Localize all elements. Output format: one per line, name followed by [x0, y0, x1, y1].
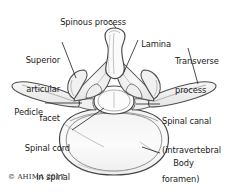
label-lamina-text: Lamina — [141, 39, 171, 49]
vertebra-diagram: Spinous process Lamina Transverse proces… — [0, 0, 228, 192]
label-transverse-process-line1: Transverse — [175, 57, 219, 67]
label-spinous-process-text: Spinous process — [60, 17, 126, 27]
label-superior-articular-facet-line2: articular — [0, 85, 60, 95]
label-superior-articular-facet-line1: Superior — [0, 56, 60, 66]
label-spinal-canal-line1: Spinal canal — [162, 117, 221, 127]
copyright-notice: © AHIMA 2017 — [8, 173, 65, 181]
label-transverse-process-line2: process — [175, 86, 219, 96]
vertebral-body-group — [59, 108, 168, 175]
label-pedicle: Pedicle — [0, 98, 43, 127]
label-pedicle-text: Pedicle — [14, 107, 43, 117]
label-body: Body — [163, 149, 194, 178]
label-body-text: Body — [173, 158, 194, 168]
label-lamina: Lamina — [131, 30, 171, 59]
label-spinal-cord-line1: Spinal cord — [0, 144, 70, 154]
leader-line-superior-articular-facet — [62, 42, 76, 78]
label-spinous-process: Spinous process — [50, 8, 126, 37]
label-spinal-cord-in-spinal-canal: Spinal cord in spinal canal — [0, 125, 70, 192]
label-spinal-canal: Spinal canal (intravertebral foramen) — [162, 98, 221, 192]
